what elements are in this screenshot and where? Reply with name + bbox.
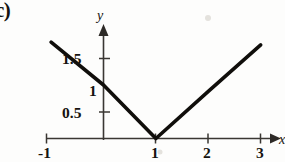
y-tick-label-1-5: 1.5 <box>62 50 82 67</box>
figure-container: c) 1.5 1 0.5 -1 1 2 3 y x <box>0 0 285 162</box>
x-axis-label: x <box>278 132 285 147</box>
graph-plot: 1.5 1 0.5 -1 1 2 3 y x <box>0 0 285 162</box>
scan-speck <box>205 15 211 21</box>
y-axis-arrow-icon <box>99 24 109 36</box>
function-curve <box>51 42 261 138</box>
x-tick-label-neg1: -1 <box>38 144 51 161</box>
y-axis-label: y <box>95 8 104 23</box>
y-tick-label-1: 1 <box>89 82 97 99</box>
x-tick-label-2: 2 <box>203 144 211 161</box>
x-tick-label-1: 1 <box>151 144 159 161</box>
y-tick-label-0-5: 0.5 <box>62 104 82 121</box>
x-tick-label-3: 3 <box>256 144 264 161</box>
